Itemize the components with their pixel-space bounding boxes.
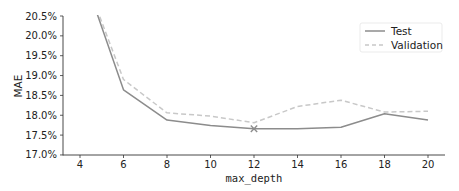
y-tick-label: 18.5% (25, 90, 57, 101)
y-axis-label: MAE (12, 75, 24, 98)
x-tick-label: 18 (378, 159, 391, 170)
x-tick-label: 16 (335, 159, 348, 170)
y-tick-label: 19.5% (25, 50, 57, 61)
series-test (80, 0, 428, 129)
legend-item-validation: Validation (391, 39, 443, 51)
y-tick-label: 17.0% (25, 149, 57, 160)
x-tick-label: 12 (248, 159, 261, 170)
plot-area (80, 0, 428, 129)
x-tick-label: 20 (422, 159, 435, 170)
y-tick-label: 17.5% (25, 130, 57, 141)
y-tick-label: 18.0% (25, 110, 57, 121)
x-tick-label: 4 (77, 159, 83, 170)
x-axis-label: max_depth (226, 172, 283, 185)
y-axis: 17.0%17.5%18.0%18.5%19.0%19.5%20.0%20.5% (25, 11, 63, 161)
legend-item-test: Test (390, 25, 412, 37)
line-chart: 17.0%17.5%18.0%18.5%19.0%19.5%20.0%20.5%… (0, 0, 459, 191)
legend: Test Validation (360, 23, 443, 52)
x-tick-label: 6 (120, 159, 126, 170)
x-tick-label: 14 (291, 159, 304, 170)
y-tick-label: 20.0% (25, 30, 57, 41)
y-tick-label: 20.5% (25, 11, 57, 22)
x-tick-label: 10 (204, 159, 217, 170)
x-axis: 468101214161820 (63, 155, 445, 170)
series-validation (80, 0, 428, 123)
x-tick-label: 8 (164, 159, 170, 170)
y-tick-label: 19.0% (25, 70, 57, 81)
